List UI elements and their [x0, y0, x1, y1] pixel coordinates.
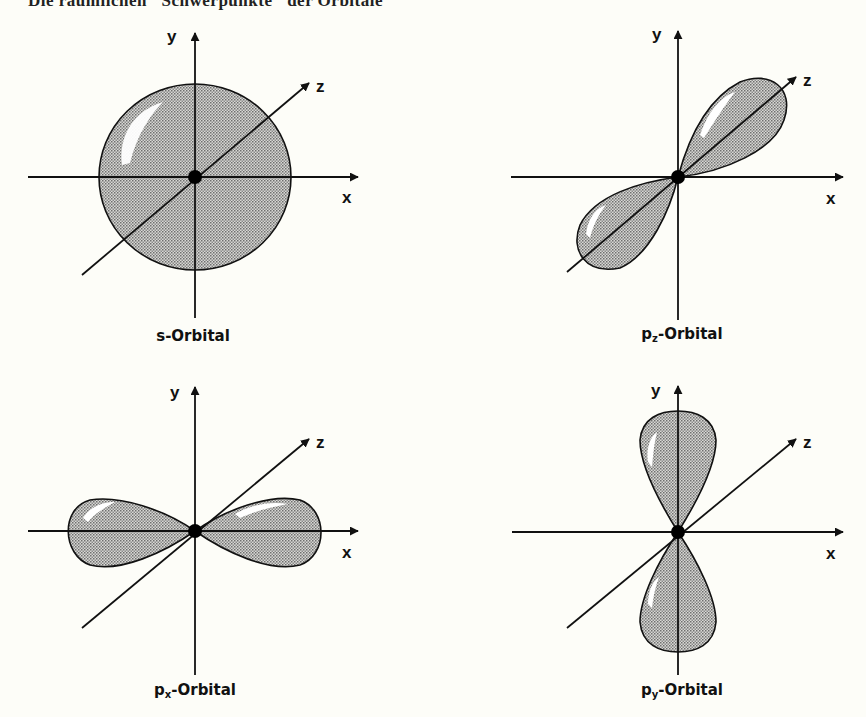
panel-px-orbital: y z x [28, 383, 358, 675]
caption-base: s [156, 327, 165, 345]
panel-py-orbital: y z x [512, 381, 843, 675]
nucleus [671, 525, 685, 539]
x-axis-label: x [342, 188, 352, 207]
z-axis-label: z [316, 433, 325, 452]
x-axis-label: x [342, 543, 352, 562]
caption-base: p [641, 325, 652, 343]
caption-base: p [154, 681, 165, 699]
x-axis-label: x [826, 544, 836, 563]
caption-py-orbital: py-Orbital [641, 681, 723, 700]
caption-px-orbital: px-Orbital [154, 681, 236, 700]
nucleus [188, 524, 202, 538]
caption-suffix: -Orbital [658, 681, 723, 699]
orbital-diagram: y z x y z x y z x [0, 0, 866, 717]
y-axis-label: y [167, 27, 177, 46]
caption-base: p [641, 681, 652, 699]
px-lobe-left [68, 499, 195, 567]
y-axis-label: y [651, 381, 661, 400]
y-axis-label: y [652, 25, 662, 44]
caption-suffix: -Orbital [165, 327, 230, 345]
nucleus [188, 170, 202, 184]
caption-suffix: -Orbital [171, 681, 236, 699]
z-axis-label: z [803, 433, 812, 452]
nucleus [671, 170, 685, 184]
x-axis-label: x [826, 189, 836, 208]
z-axis-label: z [803, 71, 812, 90]
caption-s-orbital: s-Orbital [156, 327, 230, 346]
panel-s-orbital: y z x [28, 27, 358, 318]
caption-suffix: -Orbital [658, 325, 723, 343]
panel-pz-orbital: y z x [511, 25, 843, 320]
z-axis-label: z [316, 77, 325, 96]
caption-pz-orbital: pz-Orbital [641, 325, 722, 344]
y-axis-label: y [170, 383, 180, 402]
